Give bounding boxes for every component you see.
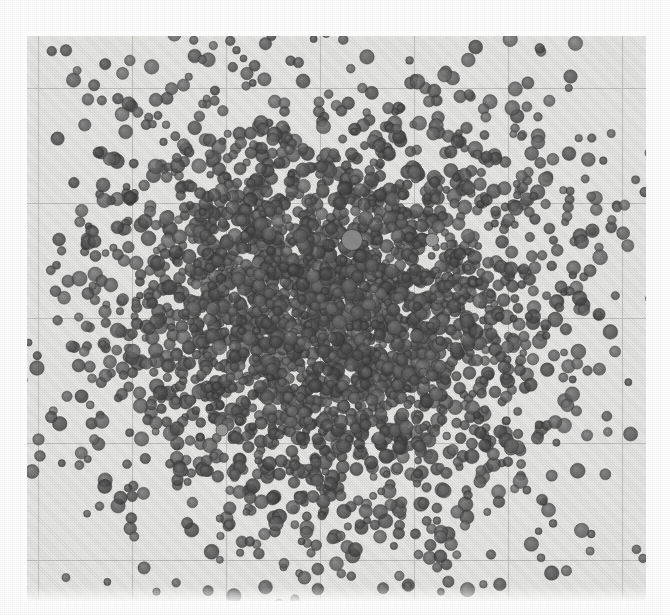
plot-area bbox=[27, 36, 646, 601]
scatter-plot-figure bbox=[0, 0, 670, 615]
scatter-marker-layer bbox=[27, 36, 646, 601]
